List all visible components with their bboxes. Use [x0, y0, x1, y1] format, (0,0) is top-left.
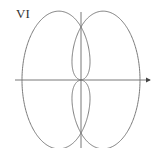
polar-plot [0, 0, 152, 148]
